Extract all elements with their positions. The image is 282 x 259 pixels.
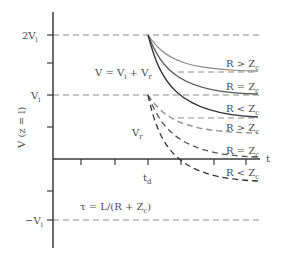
dashed-label-r-lt-zc: R < Zc xyxy=(226,167,259,181)
y-axis-ticks xyxy=(47,35,53,220)
x-axis-label: t xyxy=(266,153,270,164)
y-axis-label: V (z = l) xyxy=(16,106,27,149)
y-tick-label-2vi: 2Vi xyxy=(22,30,39,44)
x-axis-ticks xyxy=(81,159,246,165)
y-tick-label-neg-vi: −Vi xyxy=(25,215,44,229)
transmission-line-voltage-diagram: 2Vi Vi −Vi V (z = l) t td V = Vi + Vr Vr… xyxy=(0,0,282,259)
dashed-label-r-gt-zc: R > Zc xyxy=(226,122,259,136)
time-constant-label: τ = L/(R + Zc) xyxy=(80,201,151,215)
total-voltage-equation: V = Vi + Vr xyxy=(94,67,152,81)
reflected-voltage-label: Vr xyxy=(131,127,143,141)
td-label: td xyxy=(143,172,152,186)
y-tick-label-vi: Vi xyxy=(30,90,41,104)
